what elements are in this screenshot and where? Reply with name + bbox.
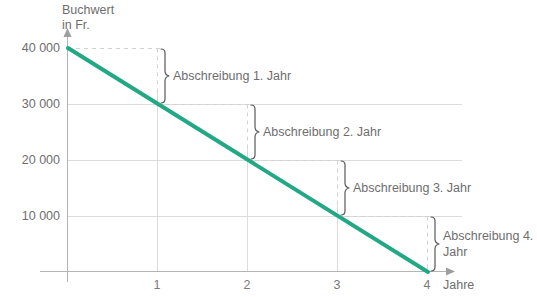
brace-dep1 bbox=[161, 49, 169, 103]
y-tick-label-10000: 10 000 bbox=[0, 209, 60, 224]
annotation-depreciation-year-1: Abschreibung 1. Jahr bbox=[173, 69, 291, 84]
x-tick-label-4: 4 bbox=[407, 278, 447, 293]
x-axis-title: Jahre bbox=[443, 278, 474, 293]
x-tick-label-1: 1 bbox=[137, 278, 177, 293]
brace-dep4 bbox=[431, 217, 439, 271]
y-axis-title-line1: Buchwert bbox=[62, 3, 114, 18]
brace-dep2 bbox=[251, 105, 259, 159]
annotation-depreciation-year-3: Abschreibung 3. Jahr bbox=[353, 181, 471, 196]
x-tick-label-2: 2 bbox=[227, 278, 267, 293]
vertical-gridlines bbox=[158, 90, 338, 272]
annotation-depreciation-year-2: Abschreibung 2. Jahr bbox=[263, 125, 381, 140]
x-axis-arrow-icon bbox=[446, 268, 455, 276]
brace-dep3 bbox=[341, 161, 349, 215]
x-tick-label-3: 3 bbox=[317, 278, 357, 293]
annotation-depreciation-year-4: Abschreibung 4. Jahr bbox=[443, 229, 537, 260]
y-tick-label-20000: 20 000 bbox=[0, 153, 60, 168]
y-tick-label-40000: 40 000 bbox=[0, 41, 60, 56]
y-tick-label-30000: 30 000 bbox=[0, 97, 60, 112]
y-axis-title-line2: in Fr. bbox=[62, 18, 90, 33]
